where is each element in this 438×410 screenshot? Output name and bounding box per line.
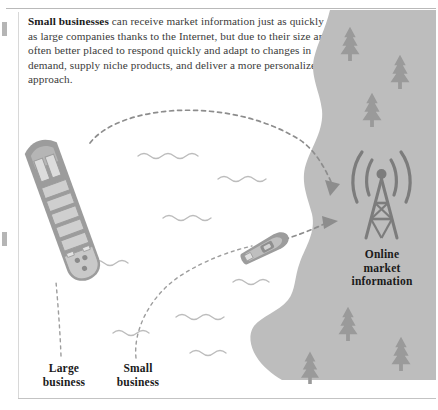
dashed-arrow-icon [90, 110, 340, 196]
label-large-business: Large business [26, 362, 102, 389]
label-small-business-line2: business [100, 376, 176, 390]
small-business-leader-line [136, 246, 252, 358]
water-wave-icon [190, 351, 226, 356]
water-wave-icon [138, 154, 198, 159]
label-large-business-line2: business [26, 376, 102, 390]
label-online-line2: market [330, 262, 434, 276]
water-wave-icon [176, 315, 224, 320]
label-online-line1: Online [330, 248, 434, 262]
water-wave-icon [218, 177, 266, 182]
large-business-leader-line [56, 282, 61, 356]
label-small-business-line1: Small [100, 362, 176, 376]
water-wave-icon [113, 331, 149, 336]
water-wave-icon [233, 280, 269, 285]
label-online-line3: information [330, 275, 434, 289]
cargo-ship-icon [22, 135, 104, 285]
diagram-canvas [0, 0, 438, 410]
water-wave-icon [163, 216, 211, 221]
label-online-market-information: Online market information [330, 248, 434, 289]
figure-container: Small businesses can receive market info… [0, 0, 438, 410]
label-small-business: Small business [100, 362, 176, 389]
label-large-business-line1: Large [26, 362, 102, 376]
